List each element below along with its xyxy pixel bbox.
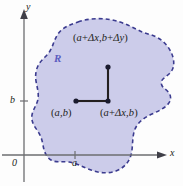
- paren-close: ): [124, 32, 128, 43]
- figure-container: y x 0 b a R (a+Δx,b+Δy) (a,b) (a+Δx,b): [0, 0, 183, 186]
- y-axis-label: y: [26, 2, 31, 12]
- x-tick-label-a: a: [72, 158, 77, 168]
- y-tick-label-b: b: [10, 95, 15, 105]
- delta-y: Δy: [113, 32, 124, 43]
- point-label-lower-left: (a,b): [51, 108, 72, 119]
- point-label-lower-right: (a+Δx,b): [100, 108, 138, 119]
- paren-close: ): [134, 107, 138, 118]
- dot-lower-right: [105, 98, 110, 103]
- dot-upper-right: [105, 64, 110, 69]
- point-label-upper-right: (a+Δx,b+Δy): [73, 33, 128, 44]
- origin-label: 0: [12, 158, 17, 168]
- x-axis-label: x: [170, 148, 175, 158]
- delta-x: Δx: [115, 107, 126, 118]
- x-axis-arrowhead: [157, 151, 167, 158]
- region-label-r: R: [54, 53, 61, 64]
- dot-lower-left: [73, 98, 78, 103]
- delta-x: Δx: [88, 32, 99, 43]
- region-diagram-svg: [0, 0, 183, 186]
- paren-close: ): [68, 107, 72, 118]
